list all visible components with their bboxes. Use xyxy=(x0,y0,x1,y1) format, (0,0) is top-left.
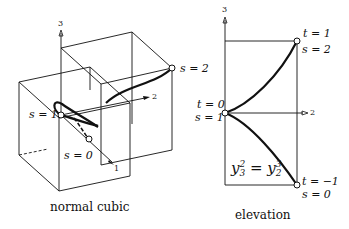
bottom-point-t-label: t = −1 xyxy=(302,176,339,187)
eq-sign: = xyxy=(245,159,267,177)
left-axis-2-label: 2 xyxy=(152,93,157,101)
point-label-s0: s = 0 xyxy=(64,150,93,161)
point-label-s1: s = 1 xyxy=(29,109,58,120)
top-point-s-label: s = 2 xyxy=(302,44,331,55)
middle-point-s-label: s = 1 xyxy=(195,112,224,123)
middle-point-t-label: t = 0 xyxy=(197,99,225,110)
top-point-t-label: t = 1 xyxy=(303,28,331,39)
eq-rhs-sub: 2 xyxy=(276,169,282,178)
point-label-s2: s = 2 xyxy=(180,63,209,74)
bottom-point-s-label: s = 0 xyxy=(302,189,331,200)
right-axis-2-label: 2 xyxy=(310,109,315,117)
curve-equation: y23 = y32 xyxy=(231,160,282,178)
left-axis-1-label: 1 xyxy=(114,165,119,173)
eq-rhs-base: y xyxy=(267,159,275,177)
right-axis-3-label: 3 xyxy=(222,6,227,14)
left-axis-3-label: 3 xyxy=(58,20,63,28)
right-caption: elevation xyxy=(235,209,291,221)
left-caption: normal cubic xyxy=(50,201,130,213)
cubic-curve xyxy=(54,68,172,138)
